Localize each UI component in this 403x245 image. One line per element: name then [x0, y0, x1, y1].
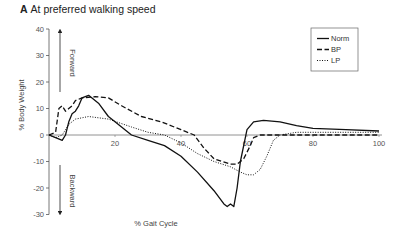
series-lp-line [49, 117, 379, 175]
forward-label: Forward [68, 49, 77, 77]
legend-label-norm: Norm [331, 34, 349, 43]
figure: AAt preferred walking speed 403020100-10… [0, 0, 403, 245]
series-bp-line [49, 97, 379, 165]
line-chart: 403020100-10-20-3020406080100% Gait Cycl… [0, 0, 403, 245]
x-tick-label: 80 [309, 139, 317, 148]
series-norm-line [49, 95, 379, 206]
y-tick-label: -10 [33, 157, 44, 166]
x-tick-label: 40 [177, 139, 185, 148]
legend-label-bp: BP [331, 45, 341, 54]
y-tick-label: 20 [36, 78, 44, 87]
x-tick-label: 100 [373, 139, 386, 148]
y-tick-label: -30 [33, 210, 44, 219]
x-axis-label: % Gait Cycle [134, 219, 177, 228]
y-tick-label: -20 [33, 184, 44, 193]
y-tick-label: 0 [40, 131, 44, 140]
x-tick-label: 20 [111, 139, 119, 148]
backward-label: Backward [68, 175, 77, 208]
y-tick-label: 10 [36, 104, 44, 113]
y-axis-label: % Body Weight [17, 79, 26, 131]
y-tick-label: 40 [36, 25, 44, 34]
y-tick-label: 30 [36, 51, 44, 60]
legend-label-lp: LP [331, 56, 340, 65]
